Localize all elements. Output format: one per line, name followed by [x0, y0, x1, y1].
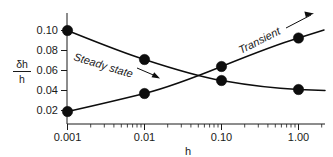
y-tick-label-1: 0.04 — [37, 84, 58, 96]
chart-figure: 0.02 0.04 0.06 0.08 0.10 δh h — [0, 0, 333, 157]
arrow-head-icon — [152, 72, 161, 78]
annotation-steady-state-pointer — [137, 68, 160, 79]
data-point — [139, 88, 149, 98]
annotation-transient-pointer — [286, 12, 314, 28]
x-tick-label-1: 0.01 — [134, 131, 155, 143]
y-tick-label-2: 0.06 — [37, 64, 58, 76]
y-axis-title-denominator: h — [19, 73, 25, 85]
x-axis-minor-ticks — [91, 124, 322, 128]
data-point — [216, 61, 226, 71]
x-axis-title: h — [185, 145, 191, 157]
y-tick-label-4: 0.10 — [37, 24, 58, 36]
data-point — [293, 33, 303, 43]
y-axis-title: δh h — [13, 58, 31, 85]
y-axis-title-numerator: δh — [16, 58, 28, 70]
x-axis-major-ticks — [68, 124, 299, 130]
y-tick-label-0: 0.02 — [37, 104, 58, 116]
data-point — [62, 25, 72, 35]
x-tick-label-0: 0.001 — [54, 131, 82, 143]
semilog-scatter-chart: 0.02 0.04 0.06 0.08 0.10 δh h — [0, 0, 333, 157]
x-tick-label-2: 0.10 — [211, 131, 232, 143]
annotation-steady-state: Steady state — [72, 50, 134, 79]
x-tick-label-3: 1.00 — [288, 131, 309, 143]
data-point — [293, 84, 303, 94]
y-axis-ticks — [61, 31, 67, 111]
data-point — [216, 75, 226, 85]
data-point — [139, 54, 149, 64]
data-point — [62, 106, 72, 116]
y-tick-label-3: 0.08 — [37, 44, 58, 56]
